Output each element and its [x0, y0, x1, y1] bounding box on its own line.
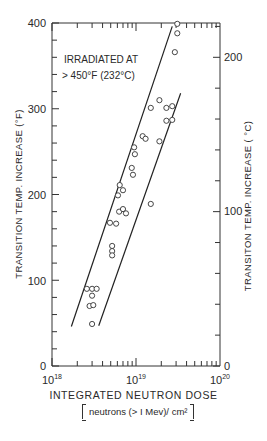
- x-tick-1e18: 1018: [42, 373, 62, 386]
- data-point: [94, 286, 99, 291]
- y-left-axis-title: TRANSITION TEMP. INCREASE (°F): [13, 109, 24, 279]
- data-point: [110, 243, 115, 248]
- data-point: [129, 165, 134, 170]
- y-right-axis-title: TRANSITON TEMP. INCREASE ( °C): [242, 121, 253, 291]
- chart-canvas: 400 300 200 100 0 200 100 0 1018 1019 10…: [0, 0, 267, 441]
- data-point: [132, 152, 137, 157]
- data-point: [107, 220, 112, 225]
- data-point: [175, 31, 180, 36]
- data-point: [164, 105, 169, 110]
- x-ticks-top: [52, 23, 216, 31]
- data-point: [172, 50, 177, 55]
- data-point: [143, 136, 148, 141]
- data-point: [84, 286, 89, 291]
- data-point: [170, 104, 175, 109]
- y-left-tick-0: 0: [40, 360, 46, 372]
- data-point: [157, 139, 162, 144]
- data-point: [120, 188, 125, 193]
- data-point: [89, 293, 94, 298]
- y-left-tick-300: 300: [28, 103, 46, 115]
- data-point: [110, 253, 115, 258]
- y-left-ticks: [52, 23, 59, 366]
- annotation-line-2: > 450°F (232°C): [62, 70, 135, 81]
- data-point: [89, 321, 94, 326]
- x-axis-units: neutrons (> I Mev)/ cm²: [82, 404, 194, 419]
- y-right-tick-labels: 200 100 0: [224, 51, 242, 372]
- data-point: [91, 303, 96, 308]
- y-left-tick-400: 400: [28, 17, 46, 29]
- data-point: [175, 21, 180, 26]
- data-point: [115, 193, 120, 198]
- annotation-line-1: IRRADIATED AT: [64, 54, 138, 65]
- y-left-tick-100: 100: [28, 275, 46, 287]
- y-right-tick-0: 0: [224, 360, 230, 372]
- data-point: [117, 182, 122, 187]
- x-axis-title: INTEGRATED NEUTRON DOSE: [0, 389, 267, 401]
- y-right-tick-100: 100: [224, 205, 242, 217]
- data-point: [148, 201, 153, 206]
- data-point: [132, 145, 137, 150]
- data-point: [157, 98, 162, 103]
- data-point: [164, 118, 169, 123]
- x-ticks-bottom: [52, 358, 216, 366]
- x-tick-1e19: 1019: [126, 373, 146, 386]
- x-tick-1e20: 1020: [210, 373, 230, 386]
- y-left-tick-labels: 400 300 200 100 0: [28, 17, 46, 372]
- y-right-tick-200: 200: [224, 51, 242, 63]
- y-left-tick-200: 200: [28, 189, 46, 201]
- y-right-ticks: [213, 26, 220, 366]
- data-point: [114, 221, 119, 226]
- data-points: [84, 21, 180, 326]
- data-point: [148, 105, 153, 110]
- x-tick-labels: 1018 1019 1020: [42, 373, 230, 386]
- data-point: [130, 172, 135, 177]
- data-point: [123, 211, 128, 216]
- data-point: [170, 117, 175, 122]
